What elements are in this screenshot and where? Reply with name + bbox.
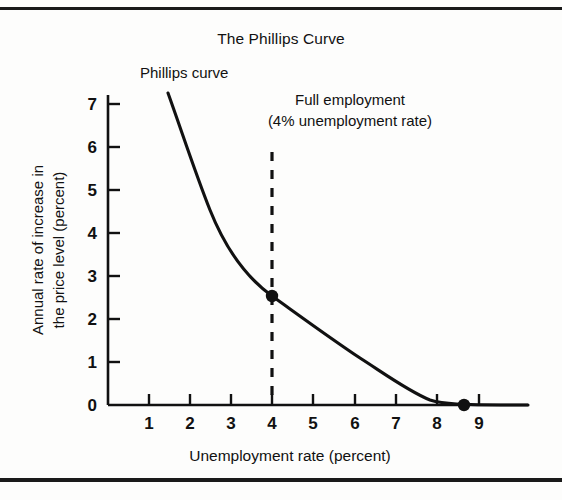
y-tick-label-4: 4 (88, 224, 98, 243)
y-tick-label-0: 0 (88, 396, 97, 415)
x-tick-label-1: 1 (144, 414, 153, 433)
full-employment-label-line2: (4% unemployment rate) (268, 112, 432, 129)
phillips-curve-plot: 0 1 2 3 4 5 6 7 1 2 3 4 5 6 7 8 9 Philli… (0, 0, 562, 500)
full-employment-point-marker (266, 290, 278, 302)
figure-panel: The Phillips Curve 0 (0, 0, 562, 500)
y-tick-label-2: 2 (88, 310, 97, 329)
x-tick-label-5: 5 (308, 414, 317, 433)
zero-inflation-point-marker (458, 399, 470, 411)
x-tick-label-3: 3 (226, 414, 235, 433)
y-tick-label-5: 5 (88, 181, 97, 200)
y-tick-label-1: 1 (88, 353, 97, 372)
y-tick-label-3: 3 (88, 267, 97, 286)
y-axis-title-line2: the price level (percent) (50, 172, 67, 329)
y-tick-label-7: 7 (88, 95, 97, 114)
phillips-curve-line (168, 93, 528, 405)
y-tick-label-6: 6 (88, 138, 97, 157)
x-axis-title: Unemployment rate (percent) (189, 447, 391, 464)
x-tick-label-8: 8 (432, 414, 441, 433)
x-tick-label-6: 6 (350, 414, 359, 433)
x-tick-label-9: 9 (474, 414, 483, 433)
phillips-curve-label: Phillips curve (140, 64, 228, 81)
y-axis-ticks (108, 104, 120, 362)
full-employment-label-line1: Full employment (295, 91, 406, 108)
x-tick-label-2: 2 (185, 414, 194, 433)
x-tick-label-7: 7 (391, 414, 400, 433)
y-axis-title-line1: Annual rate of increase in (29, 165, 46, 335)
x-tick-label-4: 4 (267, 414, 277, 433)
